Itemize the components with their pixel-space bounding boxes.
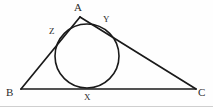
geometry-figure: A B C X Y Z — [0, 0, 213, 107]
vertex-label-a: A — [74, 2, 82, 13]
side-AC — [80, 17, 196, 89]
vertex-label-b: B — [6, 87, 13, 98]
vertex-label-c: C — [198, 87, 205, 98]
inscribed-circle — [55, 24, 119, 88]
triangle-outline — [21, 17, 196, 89]
bottom-divider — [0, 106, 213, 107]
tangent-label-y: Y — [103, 15, 110, 24]
tangent-label-x: X — [84, 93, 91, 102]
tangent-label-z: Z — [49, 27, 55, 36]
